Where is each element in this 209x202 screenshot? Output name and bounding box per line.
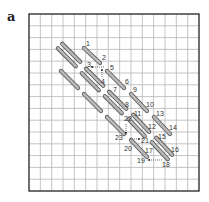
stitch-number-label: 4: [101, 78, 105, 85]
stitch-number-label: 20: [124, 145, 132, 152]
stitch-number-label: 5: [110, 64, 114, 71]
stitch-11-12: [129, 115, 149, 136]
stitch-number-label: 8: [125, 101, 129, 108]
stitch-number-label: 3: [87, 61, 91, 68]
stitch-number-label: 23: [115, 134, 123, 141]
stitch-number-label: 19: [137, 157, 145, 164]
stitch-number-label: 21: [141, 137, 149, 144]
stitch-number-label: 13: [156, 110, 164, 117]
stitch-13-14: [154, 117, 170, 134]
stitch-number-label: 10: [146, 101, 154, 108]
stitch-double-top-left: [58, 44, 80, 66]
stitch-number-label: 9: [133, 86, 137, 93]
stitch-number-label: 22: [124, 115, 132, 122]
stitch-number-label: 6: [125, 78, 129, 85]
stitch-single-left: [61, 71, 78, 88]
stitch-3-4: [82, 69, 103, 90]
stitch-number-label: 16: [171, 146, 179, 153]
stitch-number-label: 12: [148, 123, 156, 130]
stitch-single-23: [107, 117, 124, 134]
stitch-number-label: 11: [134, 110, 141, 117]
stitch-number-label: 1: [86, 40, 90, 47]
stitch-number-label: 14: [169, 124, 177, 131]
stitch-number-label: 15: [158, 133, 166, 140]
stitch-number-label: 2: [102, 54, 106, 61]
stitch-number-label: 17: [145, 147, 153, 154]
stitch-number-label: 7: [113, 86, 117, 93]
stitch-number-label: 18: [162, 161, 170, 168]
stitch-diagram: 1234567891011121314151617181920212223: [0, 0, 209, 202]
